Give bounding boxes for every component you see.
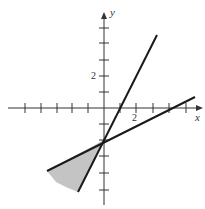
y-axis-arrow-icon (101, 12, 107, 19)
x-tick-label-2: 2 (132, 112, 137, 123)
inequality-graph: y x 2 2 (0, 0, 205, 209)
steep-line (78, 35, 157, 192)
x-axis-label: x (194, 111, 200, 123)
y-axis-label: y (109, 6, 115, 18)
y-tick-label-2: 2 (91, 70, 96, 81)
y-axis (99, 16, 109, 205)
